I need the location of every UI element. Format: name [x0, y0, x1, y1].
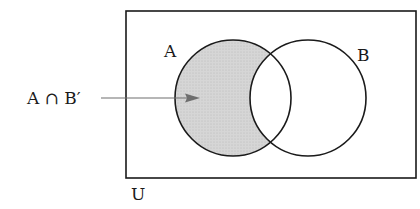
shaded-region-label: A ∩ B′: [26, 88, 81, 108]
venn-diagram: A B A ∩ B′ U: [0, 0, 420, 209]
set-b-label: B: [357, 45, 370, 65]
set-a-label: A: [163, 41, 177, 61]
universe-label: U: [131, 184, 145, 204]
